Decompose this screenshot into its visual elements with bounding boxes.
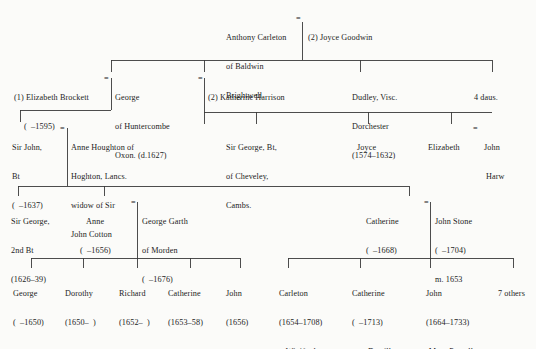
marriage-symbol: = [296,14,301,24]
person-line: Anne Houghton of [71,143,161,153]
person-line: Richard [119,289,169,299]
person-line: (1653–58) [168,318,222,328]
person-catherine-1713: Catherine ( –1713) = . . . . Dorrill [344,270,416,349]
person-sir-george-bt-cheveley: Sir George, Bt, of Cheveley, Cambs. [226,124,306,230]
person-line: Carleton [279,289,339,299]
person-joyce: Joyce [357,124,397,172]
person-john-1656: John (1656) [226,270,266,347]
person-line: Elizabeth [428,143,472,153]
person-seven-others: 7 others [498,270,536,318]
marriage-symbol: = [198,74,203,84]
person-line: 7 others [498,289,536,299]
marriage-symbol: = [131,198,136,208]
person-line: John [422,289,496,299]
person-line: George [13,289,61,299]
person-line: (1) Elizabeth Brockett [14,93,106,103]
person-anne: Anne ( –1656) [80,198,132,275]
person-line: Sir John, [12,143,60,153]
person-line: ( –1668) [366,246,422,256]
genealogy-chart: Anthony Carleton of Baldwin Brightwell =… [0,0,536,349]
person-joyce-goodwin: (2) Joyce Goodwin [308,14,398,62]
person-line: Dudley, Visc. [352,93,426,103]
person-line: Anne [80,217,132,227]
person-line: ( –1704) [435,246,501,256]
person-line: of Baldwin [226,62,302,72]
person-line: ( –1650) [13,318,61,328]
marriage-symbol: = [424,198,429,208]
person-line: Hoghton, Lancs. [71,172,161,182]
person-line: (2) Joyce Goodwin [308,33,398,43]
person-line: (1664–1733) [422,318,496,328]
person-line: Sir George, [11,217,71,227]
person-line: (1652– ) [119,318,169,328]
person-four-daughters: 4 daus. [474,74,524,122]
person-elizabeth: Elizabeth [428,124,472,172]
person-line: Catherine [366,217,422,227]
person-line: George [115,93,201,103]
person-line: (2) Katherine Harrison [208,93,328,103]
person-line: (1650– ) [65,318,115,328]
person-line: George Garth [142,217,214,227]
person-line: Anthony Carleton [226,33,302,43]
marriage-symbol: = [473,124,478,134]
person-dorothy-1650: Dorothy (1650– ) [65,270,115,347]
person-line: ( –1656) [80,246,132,256]
person-line: Joyce [357,143,397,153]
person-line: ( –1713) [344,318,416,328]
person-line: (1654–1708) [279,318,339,328]
marriage-symbol: = [104,74,109,84]
person-line: of Cheveley, [226,172,306,182]
person-line: of Morden [142,246,214,256]
person-carleton-1654-1708: Carleton (1654–1708) = Winifred Glanvill… [279,270,339,349]
person-line: Dorothy [65,289,115,299]
person-catherine-1653-58: Catherine (1653–58) [168,270,222,347]
person-george-1650: George ( –1650) [13,270,61,347]
person-line: John Stone [435,217,501,227]
person-line: John [484,143,536,153]
person-john-1664-1733: John (1664–1733) = Mary Pascall of Great… [422,270,496,349]
person-line: John [226,289,266,299]
person-john-harw: John Harw [484,124,536,201]
person-richard-1652: Richard (1652– ) [119,270,169,347]
person-line: 4 daus. [474,93,524,103]
person-line: Harw [484,172,536,182]
person-line: (1656) [226,318,266,328]
marriage-symbol: = [60,124,65,134]
person-katherine-harrison: (2) Katherine Harrison [208,74,328,122]
person-line: Catherine [168,289,222,299]
person-line: Catherine [344,289,416,299]
person-line: Bt [12,172,60,182]
person-catherine: Catherine ( –1668) [366,198,422,275]
person-line: 2nd Bt [11,246,71,256]
person-line: Cambs. [226,201,306,211]
person-line: Sir George, Bt, [226,143,306,153]
